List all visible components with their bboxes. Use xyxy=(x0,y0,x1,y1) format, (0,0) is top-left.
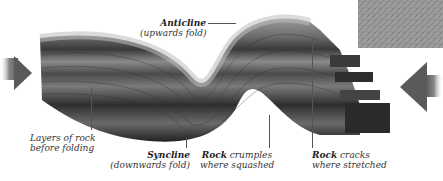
leader-anticline xyxy=(208,23,236,24)
compression-arrow-left xyxy=(0,56,32,90)
label-anticline: Anticline (upwards fold) xyxy=(140,18,206,38)
label-rock-crumples: Rock crumples where squashed xyxy=(200,150,272,170)
label-layers-of-rock: Layers of rock before folding xyxy=(30,133,92,153)
leader-syncline xyxy=(186,138,187,148)
label-syncline: Syncline (downwards fold) xyxy=(110,150,190,170)
leader-crumples xyxy=(269,115,270,148)
rock-texture-photo xyxy=(358,0,443,48)
label-rock-cracks: Rock cracks where stretched xyxy=(312,150,392,170)
fold-diagram: Layers of rock before folding Anticline … xyxy=(0,0,443,181)
compression-arrow-right xyxy=(400,62,443,112)
leader-layers xyxy=(91,88,92,130)
leader-cracks xyxy=(312,40,313,148)
